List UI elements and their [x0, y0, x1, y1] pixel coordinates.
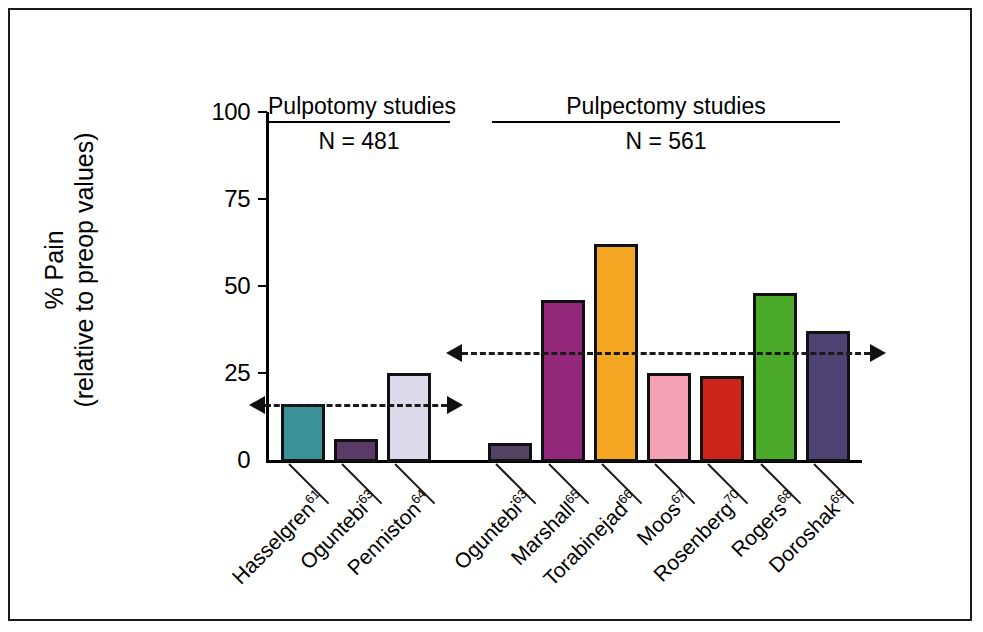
y-tick-label-wrap-0: 0 [184, 448, 250, 472]
group-header-pulpotomy: Pulpotomy studies N = 481 [268, 94, 450, 156]
mean-line-pulpotomy [265, 404, 447, 407]
bar-doroshak-69[interactable] [806, 331, 850, 462]
mean-line-arrow-right-pulpotomy [447, 396, 463, 414]
y-tick-75 [258, 198, 267, 200]
y-tick-label-100: 100 [211, 100, 250, 124]
citation-ref: 69 [826, 486, 847, 507]
y-tick-50 [258, 285, 267, 287]
group-n-pulpotomy: N = 481 [268, 123, 450, 156]
bar-marshall-65[interactable] [541, 300, 585, 462]
mean-line-pulpectomy [462, 352, 870, 355]
citation-ref: 70 [720, 486, 741, 507]
mean-line-arrow-left-pulpotomy [249, 396, 265, 414]
citation-ref: 61 [301, 486, 322, 507]
group-header-pulpectomy: Pulpectomy studies N = 561 [492, 94, 840, 156]
y-tick-label-wrap-25: 25 [184, 361, 250, 385]
y-tick-label-wrap-75: 75 [184, 187, 250, 211]
citation-ref: 68 [773, 486, 794, 507]
y-tick-label-50: 50 [224, 274, 250, 298]
bar-moos-67[interactable] [647, 373, 691, 462]
y-tick-100 [258, 111, 267, 113]
y-axis-title-line1: % Pain [39, 110, 69, 430]
y-tick-label-25: 25 [224, 361, 250, 385]
bar-rosenberg-70[interactable] [700, 376, 744, 462]
y-axis-line [266, 112, 269, 462]
y-tick-label-75: 75 [224, 187, 250, 211]
bar-penniston-64[interactable] [387, 373, 431, 462]
mean-line-arrow-left-pulpectomy [446, 344, 462, 362]
mean-line-arrow-right-pulpectomy [870, 344, 886, 362]
group-title-pulpotomy: Pulpotomy studies [268, 94, 450, 121]
citation-ref: 65 [561, 486, 582, 507]
citation-ref: 66 [614, 486, 635, 507]
y-tick-label-0: 0 [237, 448, 250, 472]
y-tick-label-wrap-50: 50 [184, 274, 250, 298]
citation-ref: 63 [354, 486, 375, 507]
y-tick-label-wrap-100: 100 [184, 100, 250, 124]
group-title-pulpectomy: Pulpectomy studies [492, 94, 840, 121]
bar-rogers-68[interactable] [753, 293, 797, 462]
group-n-pulpectomy: N = 561 [492, 123, 840, 156]
y-tick-25 [258, 372, 267, 374]
citation-ref: 67 [667, 486, 688, 507]
citation-ref: 64 [407, 486, 428, 507]
bar-oguntebi-63[interactable] [334, 439, 378, 462]
figure-frame: % Pain (relative to preop values) 025507… [8, 8, 972, 621]
chart-plot-area: % Pain (relative to preop values) 025507… [10, 10, 974, 623]
y-axis-title: % Pain (relative to preop values) [39, 110, 99, 430]
citation-ref: 63 [508, 486, 529, 507]
y-axis-title-line2: (relative to preop values) [69, 110, 99, 430]
bar-hasselgren-61[interactable] [281, 404, 325, 462]
bar-oguntebi-63[interactable] [488, 443, 532, 462]
